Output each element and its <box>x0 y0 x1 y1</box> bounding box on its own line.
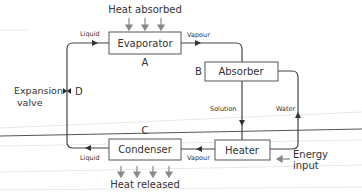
heat-released-arrows <box>118 166 172 177</box>
condenser-label: Condenser <box>118 144 173 155</box>
energy-input-label-line2: input <box>293 160 319 171</box>
energy-input-arrow <box>277 156 290 162</box>
heat-absorbed-label: Heat absorbed <box>108 4 182 15</box>
heat-released-label: Heat released <box>110 179 180 190</box>
expansion-valve-letter: D <box>75 86 83 97</box>
flow-arrows <box>85 40 301 152</box>
flow-label-solution: Solution <box>210 105 236 113</box>
expansion-valve-label-line2: valve <box>17 97 43 108</box>
heater-label: Heater <box>225 145 260 156</box>
flow-label-liquid-top: Liquid <box>80 30 100 38</box>
evaporator-label: Evaporator <box>117 38 173 49</box>
flow-label-liquid-bottom: Liquid <box>80 154 100 162</box>
condenser-letter: C <box>142 125 149 136</box>
absorber-label: Absorber <box>218 66 264 77</box>
absorption-cycle-diagram: Evaporator A Absorber B Condenser C Heat… <box>0 0 362 194</box>
flow-label-vapour-top: Vapour <box>187 31 210 39</box>
heat-absorbed-arrows <box>126 18 164 30</box>
expansion-valve-label-line1: Expansion <box>14 85 63 96</box>
flow-label-vapour-bottom: Vapour <box>187 154 210 162</box>
absorber-letter: B <box>195 66 202 77</box>
divider-line <box>0 129 362 136</box>
evaporator-letter: A <box>142 57 149 68</box>
flow-label-water: Water <box>276 105 296 113</box>
energy-input-label-line1: Energy <box>293 149 328 160</box>
circuit-lines <box>67 43 298 149</box>
